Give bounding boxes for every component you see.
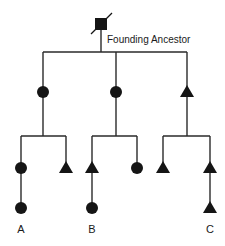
circle-icon: [86, 202, 98, 214]
triangle-icon: [203, 161, 217, 173]
circle-icon: [37, 86, 49, 98]
circle-icon: [15, 162, 27, 174]
circle-icon: [15, 202, 27, 214]
circle-icon: [131, 162, 143, 174]
founding-ancestor-label: Founding Ancestor: [107, 34, 191, 45]
triangle-icon: [59, 161, 73, 173]
triangle-icon: [156, 161, 170, 173]
triangle-icon: [85, 161, 99, 173]
triangle-icon: [203, 201, 217, 213]
leaf-label-c: C: [206, 223, 214, 235]
kinship-diagram: Founding Ancestor A B C: [0, 0, 225, 246]
circle-icon: [110, 86, 122, 98]
connector-lines: [21, 30, 210, 208]
triangle-icon: [180, 85, 194, 97]
leaf-label-a: A: [17, 223, 25, 235]
leaf-label-b: B: [88, 223, 95, 235]
